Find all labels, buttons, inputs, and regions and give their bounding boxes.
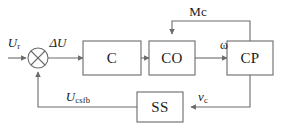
signal-label-omega: ω [220,39,228,51]
signal-label-ur: Ur [8,36,20,49]
signal-label-delta-u: ΔU [49,36,66,49]
control-block-diagram: C CO CP SS Ur ΔU ω Mc Ucsfb vc [0,0,282,132]
signal-base-ucsfb: U [66,89,75,104]
signal-label-ucsfb: Ucsfb [66,90,90,103]
signal-label-mc: Mc [189,5,206,18]
connector-mc-feedback [172,21,250,41]
diagram-canvas [0,0,282,132]
block-label-c: C [107,51,117,66]
signal-label-vc: vc [198,90,208,103]
signal-sub-ur: r [17,41,20,51]
block-label-cp: CP [241,51,260,66]
signal-base-ur: U [8,35,17,50]
block-label-co: CO [161,51,182,66]
signal-sub-vc: c [204,95,208,105]
signal-sub-ucsfb: csfb [75,95,90,105]
signal-base-vc: v [198,89,204,104]
signal-base-delta-u: ΔU [49,35,66,50]
block-label-ss: SS [151,100,168,115]
